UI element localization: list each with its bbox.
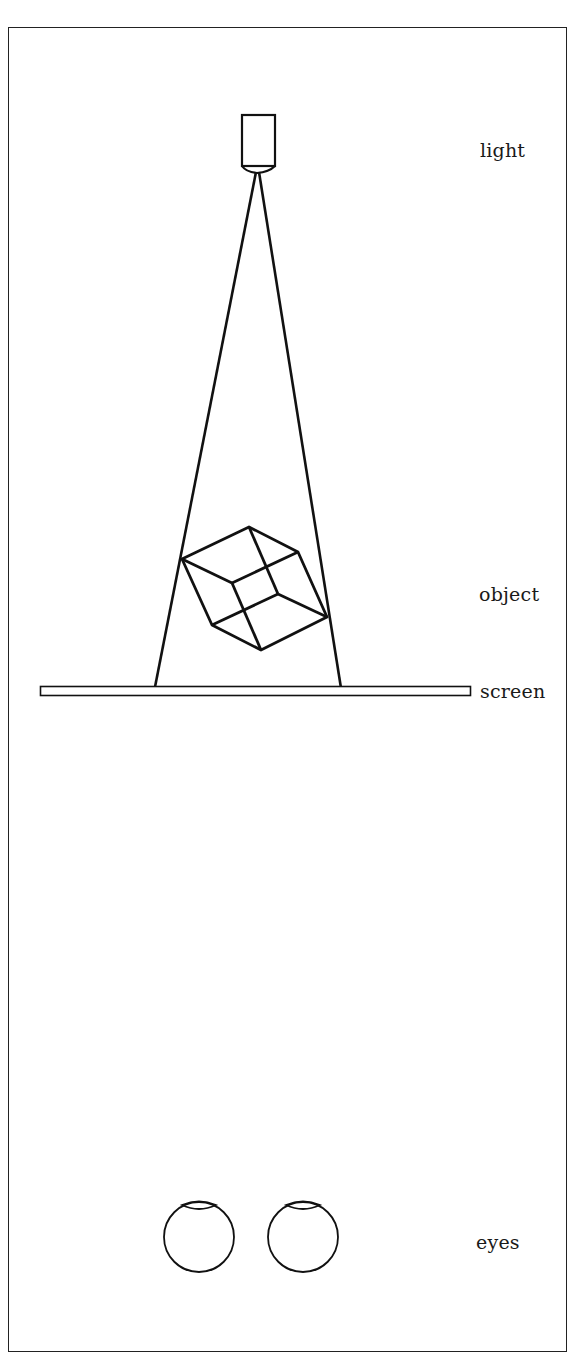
right-ray: [259, 172, 341, 688]
eyes-label: eyes: [476, 1233, 520, 1252]
cube-object: [182, 527, 327, 650]
screen-label: screen: [480, 682, 545, 701]
left-eye-icon: [164, 1202, 234, 1273]
light-source-icon: [242, 115, 275, 173]
shadow-projection-diagram: [0, 0, 585, 1358]
projection-screen: [41, 687, 471, 696]
object-label: object: [479, 585, 539, 604]
right-eye-icon: [268, 1202, 338, 1273]
light-label: light: [480, 141, 525, 160]
